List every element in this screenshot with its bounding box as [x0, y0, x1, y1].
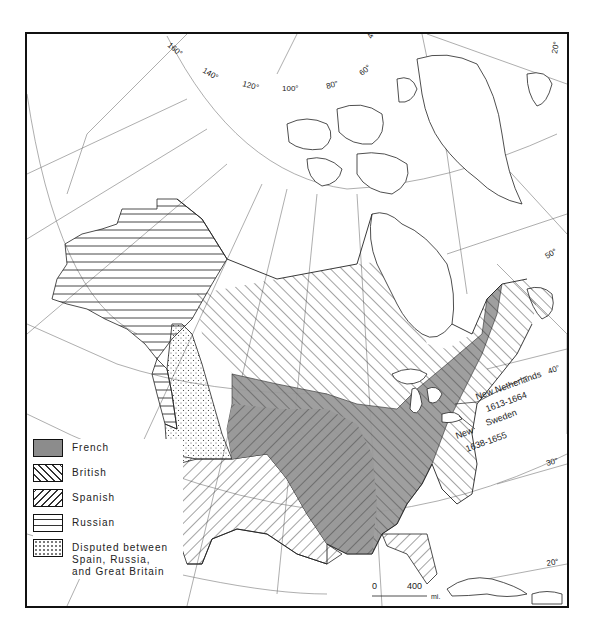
french-swatch-icon	[33, 439, 63, 457]
lon-label-140: 140°	[201, 66, 220, 82]
legend-label: British	[72, 464, 107, 479]
lon-label-160: 160°	[166, 41, 184, 59]
legend-item-disputed: Disputed between Spain, Russia, and Grea…	[33, 539, 183, 579]
scale-start: 0	[372, 581, 377, 591]
disputed-swatch-icon	[33, 539, 63, 557]
lat-label-30: 30°	[545, 456, 559, 468]
legend-label: French	[72, 439, 109, 454]
legend-label: Russian	[72, 514, 115, 529]
lon-label-20: 20°	[550, 41, 561, 54]
legend-label: Disputed between Spain, Russia, and Grea…	[72, 539, 172, 578]
legend-label: Spanish	[72, 489, 115, 504]
arctic-archipelago	[287, 78, 417, 194]
map-frame: 160° 140° 120° 100° 80° 60° 40° 20° 50° …	[25, 32, 569, 608]
lon-label-120: 120°	[241, 79, 259, 92]
lat-label-50: 50°	[544, 247, 559, 261]
scale-end: 400	[407, 581, 422, 591]
russian-swatch-icon	[33, 514, 63, 532]
russian-territory	[52, 199, 227, 359]
lat-label-20: 20°	[546, 557, 559, 568]
lat-label-40: 40°	[547, 363, 561, 376]
legend-item-spanish: Spanish	[33, 489, 183, 514]
legend-item-russian: Russian	[33, 514, 183, 539]
scale-unit: mi.	[431, 593, 440, 600]
legend-item-french: French	[33, 439, 183, 464]
cuba	[447, 578, 527, 597]
lon-label-60: 60°	[358, 63, 373, 78]
greenland	[417, 55, 522, 204]
longitude-labels: 160° 140° 120° 100° 80° 60° 40° 20°	[166, 34, 561, 93]
lon-label-80: 80°	[325, 79, 339, 91]
legend-item-british: British	[33, 464, 183, 489]
spanish-swatch-icon	[33, 489, 63, 507]
british-swatch-icon	[33, 464, 63, 482]
scale-bar: 0 400 mi.	[372, 581, 440, 600]
legend: French British Spanish Russian Disputed …	[33, 439, 183, 579]
lon-label-40: 40°	[365, 34, 378, 40]
lon-label-100: 100°	[282, 84, 299, 93]
